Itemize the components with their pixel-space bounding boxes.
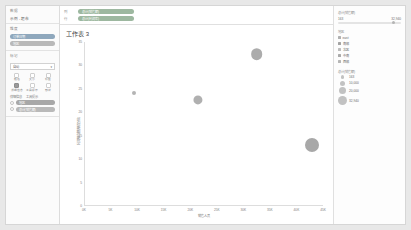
color-legend-label: 西部 bbox=[343, 59, 349, 64]
columns-shelf[interactable]: 列 总计(销售额) bbox=[64, 8, 329, 15]
color-legend-label: east bbox=[343, 36, 349, 40]
marks-label-button[interactable]: 标签 bbox=[41, 73, 55, 82]
color-legend-item[interactable]: 南部 bbox=[338, 41, 401, 46]
size-swatch-wrap bbox=[338, 96, 347, 106]
scatter-plot[interactable]: 销售人员 051015202530350K5K10K15K20K25K30K35… bbox=[84, 42, 323, 206]
size-legend-item[interactable]: 10,000 bbox=[338, 81, 401, 86]
worksheet-area: 列 总计(销售额) 行 总计(利润率) 工作表 3 利润额/销售额百分比 销售人… bbox=[60, 6, 333, 224]
y-axis-title: 利润额/销售额百分比 bbox=[76, 117, 81, 145]
rows-shelf-label: 行 bbox=[64, 16, 74, 21]
x-axis-line bbox=[84, 205, 323, 206]
scatter-point[interactable] bbox=[194, 95, 203, 104]
marks-tooltip-header: 工具提示 bbox=[26, 94, 38, 99]
marks-color-button[interactable]: 颜色 bbox=[10, 73, 24, 82]
size-legend-label: 163 bbox=[349, 75, 354, 79]
marks-detail-label: 详细信息 bbox=[11, 89, 23, 92]
rows-pill-profit-ratio[interactable]: 总计(利润率) bbox=[78, 16, 134, 22]
color-swatch-icon bbox=[338, 36, 341, 39]
size-legend-item[interactable]: 20,000 bbox=[338, 87, 401, 94]
columns-pill-sales[interactable]: 总计(销售额) bbox=[78, 9, 134, 15]
color-legend-items: east南部北区中南西部 bbox=[338, 36, 401, 64]
y-axis-line bbox=[84, 42, 85, 206]
color-legend-item[interactable]: east bbox=[338, 36, 401, 40]
x-axis-tick: 25K bbox=[214, 208, 220, 212]
x-axis-tick: 30K bbox=[240, 208, 246, 212]
data-section-title: 数据 bbox=[10, 9, 29, 14]
y-axis-tick: 15 bbox=[78, 134, 82, 138]
size-legend-item[interactable]: 163 bbox=[338, 75, 401, 79]
color-swatch-icon bbox=[338, 42, 341, 45]
color-swatch-icon bbox=[338, 48, 341, 51]
marks-label-label: 标签 bbox=[45, 78, 51, 81]
marks-shape-label: 形状 bbox=[45, 89, 51, 92]
sidebar-filler bbox=[6, 117, 59, 224]
shelves: 列 总计(销售额) 行 总计(利润率) bbox=[60, 6, 333, 25]
x-axis-tick: 45K bbox=[320, 208, 326, 212]
marks-detail-button[interactable]: 详细信息 bbox=[10, 83, 24, 92]
size-swatch-icon bbox=[341, 75, 344, 78]
size-legend-label: 10,000 bbox=[349, 81, 359, 85]
marks-shape-button[interactable]: 形状 bbox=[41, 83, 55, 92]
marks-field-sales[interactable]: 总计(销售额) bbox=[10, 107, 55, 112]
color-swatch-icon bbox=[10, 101, 14, 105]
scatter-point[interactable] bbox=[251, 48, 263, 60]
mark-property-buttons: 颜色 大小 标签 详细信息 工具提示 bbox=[10, 73, 55, 92]
size-legend-title: 总计(销售额) bbox=[338, 69, 401, 74]
color-legend-label: 北区 bbox=[343, 47, 349, 52]
size-swatch-wrap bbox=[338, 75, 347, 78]
page-title: 工作表 3 bbox=[60, 25, 333, 40]
y-axis-tick: 20 bbox=[78, 110, 82, 114]
x-axis-tick: 40K bbox=[294, 208, 300, 212]
size-swatch-icon bbox=[339, 87, 346, 94]
marks-size-button[interactable]: 大小 bbox=[26, 73, 40, 82]
color-legend-item[interactable]: 北区 bbox=[338, 47, 401, 52]
y-axis-tick: 10 bbox=[78, 157, 82, 161]
size-swatch-icon bbox=[10, 107, 14, 111]
size-swatch-icon bbox=[340, 81, 345, 86]
size-swatch-icon bbox=[338, 96, 348, 106]
scatter-point[interactable] bbox=[132, 91, 136, 95]
color-legend-label: 中南 bbox=[343, 53, 349, 58]
data-source-name[interactable]: 示例 - 超市 bbox=[10, 16, 29, 21]
size-swatch-wrap bbox=[338, 81, 347, 86]
color-legend-item[interactable]: 西部 bbox=[338, 59, 401, 64]
columns-shelf-label: 列 bbox=[64, 9, 74, 14]
chart-canvas: 利润额/销售额百分比 销售人员 051015202530350K5K10K15K… bbox=[64, 40, 327, 222]
marks-tooltip-label: 工具提示 bbox=[26, 89, 38, 92]
color-legend-title: 地区 bbox=[338, 29, 401, 34]
x-axis-tick: 20K bbox=[187, 208, 193, 212]
data-source-section: 数据 示例 - 超市 bbox=[6, 6, 59, 24]
field-pill-region[interactable]: 地区 bbox=[10, 41, 55, 46]
marks-card: 标记 自动 ▾ 颜色 大小 标签 bbox=[6, 51, 59, 117]
mark-type-value: 自动 bbox=[13, 64, 19, 69]
size-legend-item[interactable]: 32,940 bbox=[338, 96, 401, 106]
y-axis-tick: 30 bbox=[78, 63, 82, 67]
color-legend-label: 南部 bbox=[343, 41, 349, 46]
tableau-window: 数据 示例 - 超市 维度 订单日期 地区 标记 自动 ▾ 颜色 bbox=[5, 5, 406, 225]
x-axis-tick: 15K bbox=[161, 208, 167, 212]
filter-min-label: 163 bbox=[338, 17, 343, 21]
color-legend: 地区 east南部北区中南西部 bbox=[338, 29, 401, 64]
y-axis-tick: 35 bbox=[78, 40, 82, 44]
dimensions-title: 维度 bbox=[10, 27, 55, 32]
rows-shelf[interactable]: 行 总计(利润率) bbox=[64, 15, 329, 22]
size-legend-label: 32,940 bbox=[349, 99, 359, 103]
y-axis-tick: 5 bbox=[80, 181, 82, 185]
filter-slider[interactable] bbox=[338, 22, 401, 24]
left-sidebar: 数据 示例 - 超市 维度 订单日期 地区 标记 自动 ▾ 颜色 bbox=[6, 6, 60, 224]
x-axis-tick: 5K bbox=[109, 208, 113, 212]
x-axis-tick: 0K bbox=[82, 208, 86, 212]
marks-tooltip-button[interactable]: 工具提示 bbox=[26, 83, 40, 92]
size-swatch-wrap bbox=[338, 87, 347, 94]
filter-card: 总计(销售额) 163 32,940 bbox=[338, 10, 401, 24]
scatter-point[interactable] bbox=[305, 138, 319, 152]
x-axis-title: 销售人员 bbox=[198, 213, 210, 218]
color-legend-item[interactable]: 中南 bbox=[338, 53, 401, 58]
marks-field-region[interactable]: 地区 bbox=[10, 100, 55, 105]
x-axis-tick: 10K bbox=[134, 208, 140, 212]
field-pill-order-date[interactable]: 订单日期 bbox=[10, 34, 55, 39]
mark-type-select[interactable]: 自动 ▾ bbox=[10, 63, 55, 70]
marks-shelf-headers: 详细信息 工具提示 bbox=[10, 94, 55, 99]
filter-range-row: 163 32,940 bbox=[338, 17, 401, 21]
marks-size-label: 大小 bbox=[29, 78, 35, 81]
